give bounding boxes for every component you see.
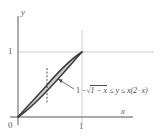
annotation-arrowhead (58, 79, 63, 83)
y-tick-label-1: 1 (8, 47, 13, 56)
annotation-suffix: x) (141, 86, 147, 95)
annotation-middle: ≤ y ≤ x(2 (109, 86, 137, 95)
annotation-prefix: 1 − (76, 86, 86, 95)
figure-canvas (0, 0, 165, 139)
x-axis-label: x (121, 107, 125, 116)
y-axis-label: y (21, 8, 25, 17)
annotation-under-radical: 1 − x (90, 85, 107, 95)
inequality-annotation: 1 −√1 − x ≤ y ≤ x(2−x) (76, 87, 147, 95)
origin-label: 0 (8, 121, 13, 130)
x-tick-label-1: 1 (79, 122, 84, 131)
math-figure-region-between-curves: y x 1 1 0 1 −√1 − x ≤ y ≤ x(2−x) (0, 0, 165, 139)
